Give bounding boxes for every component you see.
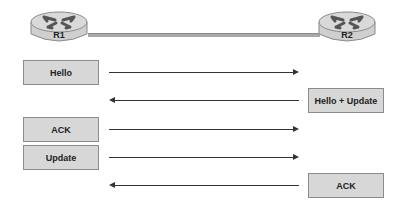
arrow-left xyxy=(111,185,299,186)
arrow-right xyxy=(109,72,297,73)
router-label: R2 xyxy=(316,30,378,40)
router-r1: R1 xyxy=(28,8,90,46)
arrow-right xyxy=(109,129,297,130)
router-link xyxy=(88,33,320,37)
arrow-left xyxy=(111,100,299,101)
message-ack-reply: ACK xyxy=(308,173,384,198)
router-icon xyxy=(316,8,378,46)
message-ack: ACK xyxy=(23,117,99,142)
message-hello-update: Hello + Update xyxy=(308,88,384,113)
router-label: R1 xyxy=(28,30,90,40)
router-r2: R2 xyxy=(316,8,378,46)
message-update: Update xyxy=(23,145,99,170)
message-hello: Hello xyxy=(23,60,99,85)
arrow-right xyxy=(109,157,297,158)
router-icon xyxy=(28,8,90,46)
